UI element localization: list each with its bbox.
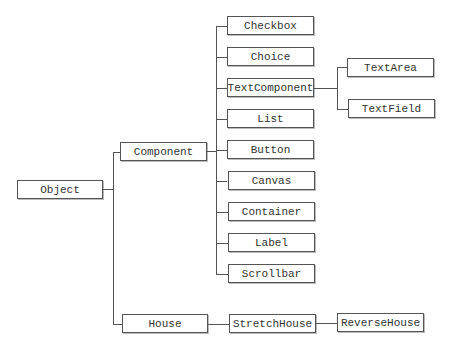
- connector: [316, 323, 337, 324]
- connector: [207, 151, 216, 152]
- connector: [216, 57, 227, 58]
- connector: [216, 119, 227, 120]
- connector: [216, 181, 227, 182]
- node-checkbox: Checkbox: [227, 16, 314, 35]
- connector: [113, 324, 122, 325]
- connector: [216, 88, 227, 89]
- node-text-area: TextArea: [347, 58, 434, 77]
- connector: [103, 189, 113, 190]
- connector: [337, 67, 347, 68]
- node-text-field: TextField: [348, 99, 435, 118]
- node-label: Label: [228, 233, 315, 252]
- node-button: Button: [227, 140, 314, 159]
- node-canvas: Canvas: [228, 171, 315, 190]
- node-list: List: [227, 109, 314, 128]
- node-reverse-house: ReverseHouse: [337, 313, 424, 332]
- connector: [113, 152, 114, 325]
- node-scrollbar: Scrollbar: [228, 264, 315, 283]
- connector: [314, 88, 337, 89]
- node-object: Object: [17, 180, 103, 199]
- node-component: Component: [120, 142, 207, 161]
- connector: [337, 109, 348, 110]
- node-house: House: [122, 314, 208, 333]
- node-container: Container: [228, 202, 315, 221]
- connector: [113, 152, 120, 153]
- node-choice: Choice: [227, 47, 314, 66]
- node-text-component: TextComponent: [227, 78, 314, 97]
- connector: [216, 150, 227, 151]
- connector: [216, 26, 227, 27]
- connector: [216, 243, 228, 244]
- connector: [216, 274, 228, 275]
- connector: [208, 324, 229, 325]
- connector: [216, 212, 228, 213]
- connector: [337, 67, 338, 110]
- node-stretch-house: StretchHouse: [229, 314, 316, 333]
